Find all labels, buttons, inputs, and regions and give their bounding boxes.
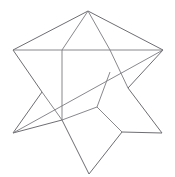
six-pointed-star-figure [0, 0, 175, 177]
canvas-background [0, 0, 175, 177]
drawing-canvas [0, 0, 175, 177]
